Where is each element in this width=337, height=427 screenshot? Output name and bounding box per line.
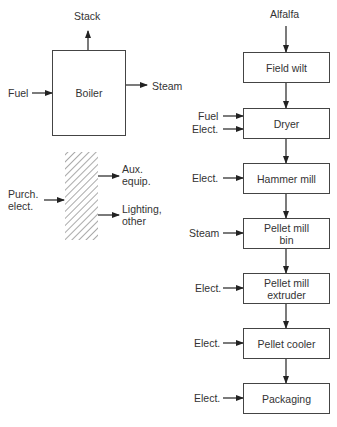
boiler-fuel-label: Fuel [8, 87, 28, 99]
step-field-wilt: Field wilt [243, 52, 330, 83]
step-label-line-1: Pellet mill [264, 222, 309, 234]
step-label: Packaging [262, 393, 311, 405]
purch-elect-label: Purch. elect. [8, 188, 38, 212]
step-label-line-2: extruder [267, 289, 306, 301]
step-label: Pellet cooler [258, 338, 316, 350]
packaging-elect-label: Elect. [194, 392, 220, 404]
step-dryer: Dryer [243, 108, 330, 139]
boiler-box: Boiler [52, 50, 126, 136]
step-hammer-mill: Hammer mill [243, 163, 330, 194]
step-pellet-mill-bin: Pellet mill bin [243, 218, 330, 249]
electric-distribution-block [65, 152, 98, 240]
alfalfa-feed-label: Alfalfa [270, 8, 299, 20]
step-label: Hammer mill [257, 173, 316, 185]
lighting-line-2: other [122, 215, 162, 227]
stack-label: Stack [74, 10, 100, 22]
cooler-elect-label: Elect. [194, 337, 220, 349]
lighting-other-label: Lighting, other [122, 203, 162, 227]
process-input-arrows [223, 116, 243, 398]
dryer-fuel-label: Fuel [198, 110, 218, 122]
aux-equip-line-2: equip. [122, 175, 151, 187]
step-packaging: Packaging [243, 383, 330, 414]
step-pellet-mill-extruder: Pellet mill extruder [243, 273, 330, 304]
dryer-elect-label: Elect. [192, 123, 218, 135]
boiler-label: Boiler [76, 87, 103, 99]
purch-elect-line-2: elect. [8, 200, 38, 212]
step-label-line-1: Pellet mill [264, 277, 309, 289]
aux-equip-line-1: Aux. [122, 163, 151, 175]
step-label: Field wilt [266, 62, 307, 74]
step-pellet-cooler: Pellet cooler [243, 328, 330, 359]
pellet-bin-steam-label: Steam [189, 227, 219, 239]
step-label-line-2: bin [279, 234, 293, 246]
purch-elect-line-1: Purch. [8, 188, 38, 200]
aux-equip-label: Aux. equip. [122, 163, 151, 187]
extruder-elect-label: Elect. [195, 282, 221, 294]
steam-output-label: Steam [152, 80, 182, 92]
lighting-line-1: Lighting, [122, 203, 162, 215]
step-label: Dryer [274, 118, 300, 130]
hammer-mill-elect-label: Elect. [192, 172, 218, 184]
